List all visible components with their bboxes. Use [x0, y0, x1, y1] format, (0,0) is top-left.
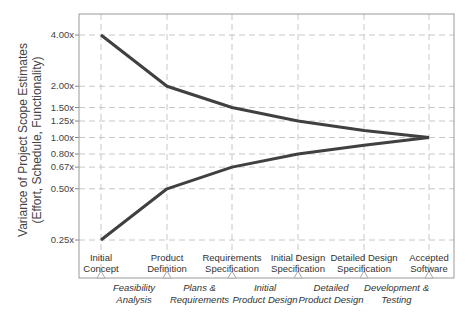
y-tick-label: 2.00x — [30, 81, 74, 91]
phase-label: Development &Testing — [352, 282, 442, 306]
milestone-label-line: Accepted — [389, 252, 469, 263]
y-tick-label: 0.80x — [30, 149, 74, 159]
y-tick-label: 1.00x — [30, 133, 74, 143]
milestone-label: AcceptedSoftware — [389, 252, 469, 274]
gridlines — [75, 14, 454, 278]
y-axis-label-line-1: Variance of Project Scope Estimates — [16, 43, 30, 237]
y-tick-label: 4.00x — [30, 30, 74, 40]
phase-label-line: Development & — [352, 282, 442, 294]
y-tick-label: 0.67x — [30, 162, 74, 172]
phase-label-line: Testing — [352, 294, 442, 306]
plot-frame — [79, 14, 454, 278]
milestone-label-line: Software — [389, 263, 469, 274]
y-tick-label: 0.25x — [30, 235, 74, 245]
y-tick-label: 0.50x — [30, 184, 74, 194]
y-tick-label: 1.25x — [30, 116, 74, 126]
y-tick-label: 1.50x — [30, 103, 74, 113]
